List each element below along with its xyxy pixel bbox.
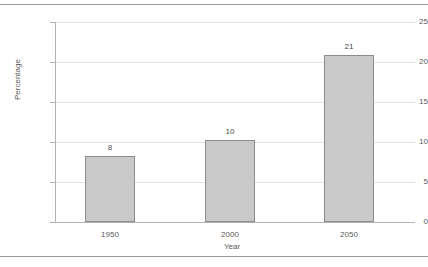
bottom-divider-rule: [0, 256, 428, 257]
y-axis-tick-label: 20: [384, 58, 428, 66]
y-axis-tick: [50, 102, 55, 103]
x-axis-title-text: Year: [224, 242, 240, 251]
x-axis-tick-label: 2050: [324, 231, 374, 239]
bar: [324, 55, 374, 222]
y-axis-tick-label: 25: [384, 18, 428, 26]
bar: [205, 140, 255, 222]
x-axis-tick-label: 1950: [85, 231, 135, 239]
x-axis-line: [56, 222, 415, 223]
y-axis-tick: [50, 62, 55, 63]
gridline: [56, 22, 415, 23]
bar-value-label: 8: [90, 144, 130, 152]
bar-chart-figure: 0510152025 81021 195020002050 Year Perce…: [0, 0, 428, 267]
x-axis-title: Year: [0, 243, 428, 251]
y-axis-tick: [50, 182, 55, 183]
x-axis-tick-label: 2000: [205, 231, 255, 239]
bar: [85, 156, 135, 222]
y-axis-tick: [50, 222, 55, 223]
y-axis-title: Percentage: [14, 59, 22, 100]
y-axis-line: [55, 22, 56, 223]
y-axis-tick-label: 5: [384, 178, 428, 186]
y-axis-tick-label: 15: [384, 98, 428, 106]
bar-value-label: 21: [329, 43, 369, 51]
y-axis-tick: [50, 22, 55, 23]
bar-value-label: 10: [210, 128, 250, 136]
top-divider-rule: [0, 4, 428, 5]
y-axis-tick: [50, 142, 55, 143]
y-axis-tick-label: 10: [384, 138, 428, 146]
y-axis-tick-label: 0: [384, 218, 428, 226]
